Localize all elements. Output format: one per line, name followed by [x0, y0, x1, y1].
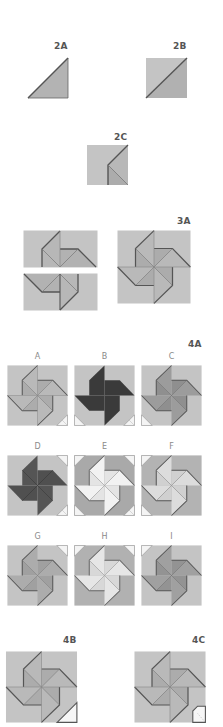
pinwheel-block-4b [4, 651, 79, 723]
half-square-triangle-2a [27, 57, 70, 99]
step-2a-label: 2A [54, 42, 68, 51]
pinwheel-variant-f [141, 455, 202, 516]
diagonal-square-2b [145, 57, 188, 99]
variant-label-h: H [74, 533, 135, 541]
pinwheel-block-3a [116, 230, 192, 304]
pinwheel-variant-e [74, 455, 135, 516]
variant-label-b: B [74, 353, 135, 361]
variant-label-e: E [74, 443, 135, 451]
step-3a-label: 3A [177, 217, 191, 226]
pinwheel-variant-c [141, 365, 202, 426]
pinwheel-variant-h [74, 545, 135, 606]
variant-label-a: A [7, 353, 68, 361]
step-4c-label: 4C [192, 636, 205, 645]
pinwheel-variant-b [74, 365, 135, 426]
pinwheel-variant-g [7, 545, 68, 606]
variant-label-g: G [7, 533, 68, 541]
variant-label-f: F [141, 443, 202, 451]
step-2c-label: 2C [114, 133, 127, 142]
top-rectangle-unit [23, 230, 98, 268]
variant-label-c: C [141, 353, 202, 361]
folded-square-2c [86, 144, 129, 186]
bottom-rectangle-unit [23, 273, 98, 311]
step-4b-label: 4B [63, 636, 77, 645]
pinwheel-variant-i [141, 545, 202, 606]
variant-label-d: D [7, 443, 68, 451]
pinwheel-variant-a [7, 365, 68, 426]
pinwheel-block-4c [133, 651, 207, 723]
pinwheel-variant-d [7, 455, 68, 516]
variant-label-i: I [141, 533, 202, 541]
step-4a-label: 4A [188, 340, 202, 349]
step-2b-label: 2B [173, 42, 187, 51]
